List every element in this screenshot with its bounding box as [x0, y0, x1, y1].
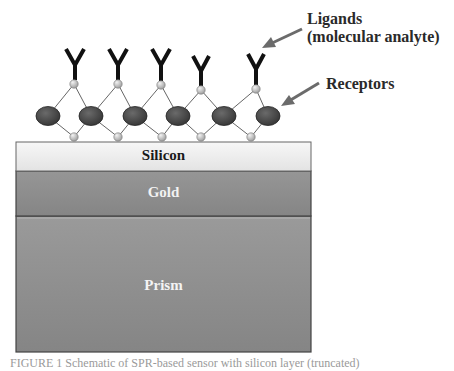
- ligands-label-line2: (molecular analyte): [307, 28, 440, 46]
- gold-layer-label: Gold: [16, 184, 311, 201]
- prism-layer-label: Prism: [16, 277, 311, 294]
- ligand-y-icon: [66, 49, 84, 80]
- ligand-y-icon: [248, 54, 264, 85]
- receptor-ellipse: [79, 107, 103, 126]
- layer-stack: [16, 142, 311, 352]
- ligands: [66, 49, 264, 86]
- arrow-icon: [281, 83, 319, 106]
- receptor-ellipse: [212, 107, 236, 126]
- ligands-label: Ligands (molecular analyte): [307, 10, 440, 46]
- receptor-ellipse: [36, 107, 60, 126]
- ligands-label-line1: Ligands: [307, 10, 440, 28]
- silicon-layer-label: Silicon: [16, 147, 311, 164]
- ligand-y-icon: [193, 56, 209, 86]
- arrow-icon: [262, 29, 302, 48]
- ligand-y-icon: [109, 49, 127, 80]
- figure-caption-truncated: FIGURE 1 Schematic of SPR-based sensor w…: [10, 356, 360, 371]
- receptor-ellipse: [256, 107, 280, 126]
- receptors: [36, 107, 280, 126]
- receptor-ellipse: [166, 107, 190, 126]
- ligand-y-icon: [152, 49, 170, 81]
- receptors-label: Receptors: [326, 75, 394, 93]
- receptor-ellipse: [123, 107, 147, 126]
